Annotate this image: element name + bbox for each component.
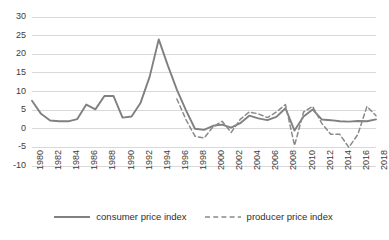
y-tick-label: 0 — [0, 124, 26, 133]
x-tick-label: 1998 — [199, 150, 208, 170]
y-tick-label: 10 — [0, 87, 26, 96]
gridlines-group — [32, 17, 376, 166]
x-tick-label: 2000 — [217, 150, 226, 170]
y-tick-label: 5 — [0, 105, 26, 114]
x-tick-label: 1984 — [72, 150, 81, 170]
series-line-producer — [177, 99, 376, 147]
y-tick-label: 25 — [0, 31, 26, 40]
x-tick-label: 1980 — [36, 150, 45, 170]
x-tick-label: 2016 — [362, 150, 371, 170]
series-line-consumer — [32, 39, 376, 130]
x-tick-label: 2004 — [253, 150, 262, 170]
y-tick-label: 30 — [0, 12, 26, 21]
legend-label-producer: producer price index — [247, 211, 333, 222]
x-tick-label: 2018 — [380, 150, 389, 170]
legend-label-consumer: consumer price index — [96, 211, 186, 222]
legend-line-solid-icon — [53, 212, 91, 222]
series-group — [32, 39, 376, 147]
x-tick-label: 1986 — [90, 150, 99, 170]
y-tick-label: 15 — [0, 68, 26, 77]
x-tick-label: 1992 — [145, 150, 154, 170]
x-tick-label: 1988 — [108, 150, 117, 170]
legend-entry-producer[interactable]: producer price index — [204, 211, 333, 222]
x-tick-label: 1996 — [181, 150, 190, 170]
x-tick-label: 2008 — [289, 150, 298, 170]
x-tick-label: 1994 — [163, 150, 172, 170]
x-tick-label: 2012 — [326, 150, 335, 170]
legend-line-dashed-icon — [204, 212, 242, 222]
x-tick-label: 2002 — [235, 150, 244, 170]
y-tick-label: -10 — [0, 161, 26, 170]
chart-legend: consumer price index producer price inde… — [0, 211, 386, 222]
legend-entry-consumer[interactable]: consumer price index — [53, 211, 186, 222]
x-tick-label: 2010 — [308, 150, 317, 170]
x-tick-label: 1990 — [127, 150, 136, 170]
y-tick-label: 20 — [0, 49, 26, 58]
y-tick-label: -5 — [0, 142, 26, 151]
x-tick-label: 2014 — [344, 150, 353, 170]
x-tick-label: 1982 — [54, 150, 63, 170]
x-tick-label: 2006 — [271, 150, 280, 170]
